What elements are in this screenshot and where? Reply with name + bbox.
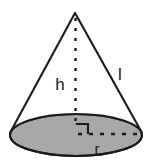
cone-figure-canvas: h l r	[0, 0, 149, 165]
height-label: h	[55, 75, 64, 94]
slant-label: l	[118, 65, 122, 84]
cone-geometry-diagram: h l r	[0, 0, 149, 165]
radius-label: r	[95, 140, 100, 157]
